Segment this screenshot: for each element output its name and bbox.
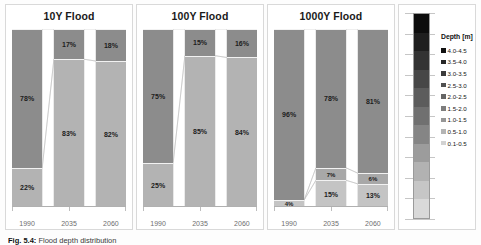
chart-panel: 10Y Flood0%78%22%0%17%83%0%18%82%1990203… (5, 4, 133, 230)
segment-value-label: 81% (366, 98, 380, 105)
legend-title: Depth [m] (441, 33, 475, 40)
legend-panel: Depth [m] 4.0-4.53.5-4.03.0-3.52.5-3.02.… (398, 4, 476, 230)
segment-value-label: 83% (62, 130, 76, 137)
bar-segment[interactable]: 78% (316, 29, 346, 168)
segment-value-label: 22% (20, 184, 34, 191)
bar-segment[interactable]: 15% (316, 180, 346, 207)
segment-value-label: 85% (193, 128, 207, 135)
legend-item: 2.5-3.0 (441, 79, 475, 91)
segment-value-label: 16% (235, 40, 249, 47)
plot-area: 96%0%4%78%7%15%81%6%13%199020352060 (274, 25, 388, 229)
bar-segment[interactable]: 96% (274, 29, 304, 200)
panel-title: 10Y Flood (6, 5, 132, 25)
stacked-bar[interactable]: 0%78%22% (12, 29, 42, 207)
colorbar-band (414, 162, 429, 181)
legend-swatch-icon (441, 83, 446, 88)
bar-segment[interactable]: 6% (358, 173, 388, 184)
bar-segment[interactable]: 22% (12, 168, 42, 207)
segment-value-label: 15% (324, 191, 338, 198)
segment-value-label: 96% (282, 111, 296, 118)
colorbar-band (414, 88, 429, 107)
x-axis-label: 2060 (96, 220, 126, 227)
bar-segment[interactable]: 85% (185, 56, 215, 207)
segment-value-label: 6% (369, 176, 378, 182)
charts-row: 10Y Flood0%78%22%0%17%83%0%18%82%1990203… (5, 4, 395, 230)
legend-item-label: 3.0-3.5 (448, 70, 467, 77)
legend-item: 3.0-3.5 (441, 68, 475, 80)
colorbar-band (414, 33, 429, 52)
legend-item-label: 2.5-3.0 (448, 82, 467, 89)
caption-text: Flood depth distribution (38, 236, 116, 245)
stacked-bar[interactable]: 78%7%15% (316, 29, 346, 207)
bar-segment[interactable]: 75% (143, 29, 173, 163)
x-axis-label: 2035 (185, 220, 215, 227)
stacked-bar[interactable]: 96%0%4% (274, 29, 304, 207)
bar-segment[interactable]: 7% (316, 168, 346, 180)
x-axis-tick (274, 207, 275, 211)
legend-item-label: 0.5-1.0 (448, 128, 467, 135)
chart-panel: 100Y Flood75%25%0%15%85%0%16%84%0%199020… (136, 4, 264, 230)
x-axis-labels: 199020352060 (143, 220, 257, 227)
stacked-bar[interactable]: 81%6%13% (358, 29, 388, 207)
stacked-bar[interactable]: 75%25%0% (143, 29, 173, 207)
bar-group: 0%78%22%0%17%83%0%18%82% (12, 29, 126, 207)
x-axis-tick (143, 207, 144, 211)
segment-value-label: 82% (104, 131, 118, 138)
bar-segment[interactable]: 82% (96, 61, 126, 207)
bar-segment[interactable]: 18% (96, 29, 126, 61)
legend-item-label: 1.0-1.5 (448, 116, 467, 123)
legend-swatch-icon (441, 94, 446, 99)
segment-value-label: 17% (62, 41, 76, 48)
x-axis-label: 1990 (274, 220, 304, 227)
legend-item-label: 0.1-0.5 (448, 140, 467, 147)
x-axis-label: 2060 (227, 220, 257, 227)
caption-label: Fig. 5.4: (8, 236, 36, 245)
colorbar-band (414, 14, 429, 33)
plot-area: 75%25%0%15%85%0%16%84%0%199020352060 (143, 25, 257, 229)
bar-segment[interactable]: 78% (12, 29, 42, 168)
segment-value-label: 75% (151, 93, 165, 100)
legend-swatch-icon (441, 71, 446, 76)
colorbar-tick (405, 219, 435, 220)
legend-item: 1.0-1.5 (441, 114, 475, 126)
legend-item-label: 1.5-2.0 (448, 105, 467, 112)
colorbar-band (414, 181, 429, 200)
x-axis-label: 2060 (358, 220, 388, 227)
colorbar-band (414, 125, 429, 144)
bar-segment[interactable]: 25% (143, 163, 173, 208)
bar-group: 96%0%4%78%7%15%81%6%13% (274, 29, 388, 207)
bar-segment[interactable]: 84% (227, 57, 257, 207)
segment-value-label: 13% (366, 192, 380, 199)
x-axis-tick (69, 207, 70, 211)
stacked-bar[interactable]: 0%17%83% (54, 29, 84, 207)
x-axis-tick (387, 207, 388, 211)
legend-item-label: 3.5-4.0 (448, 58, 467, 65)
x-axis-tick (12, 207, 13, 211)
bar-segment[interactable]: 15% (185, 29, 215, 56)
colorbar-band (414, 107, 429, 126)
legend-item: 1.5-2.0 (441, 102, 475, 114)
legend-swatch-icon (441, 60, 446, 65)
legend-swatch-icon (441, 141, 446, 146)
stacked-bar[interactable]: 0%18%82% (96, 29, 126, 207)
bar-segment[interactable]: 17% (54, 29, 84, 59)
bar-segment[interactable]: 13% (358, 184, 388, 207)
legend-item: 4.0-4.5 (441, 45, 475, 57)
bar-segment[interactable]: 81% (358, 29, 388, 173)
stacked-bar[interactable]: 16%84%0% (227, 29, 257, 207)
bar-segment[interactable]: 83% (54, 59, 84, 207)
colorbar-band (414, 51, 429, 70)
segment-value-label: 18% (104, 42, 118, 49)
depth-colorbar (413, 13, 430, 219)
colorbar-band (414, 70, 429, 89)
x-axis-labels: 199020352060 (12, 220, 126, 227)
bar-segment[interactable]: 16% (227, 29, 257, 57)
legend-item: 0.1-0.5 (441, 137, 475, 149)
figure-root: 10Y Flood0%78%22%0%17%83%0%18%82%1990203… (0, 0, 481, 245)
x-axis-tick (125, 207, 126, 211)
bar-group: 75%25%0%15%85%0%16%84%0% (143, 29, 257, 207)
legend-item: 0.5-1.0 (441, 126, 475, 138)
stacked-bar[interactable]: 15%85%0% (185, 29, 215, 207)
legend-swatch-icon (441, 129, 446, 134)
segment-value-label: 7% (327, 172, 336, 178)
